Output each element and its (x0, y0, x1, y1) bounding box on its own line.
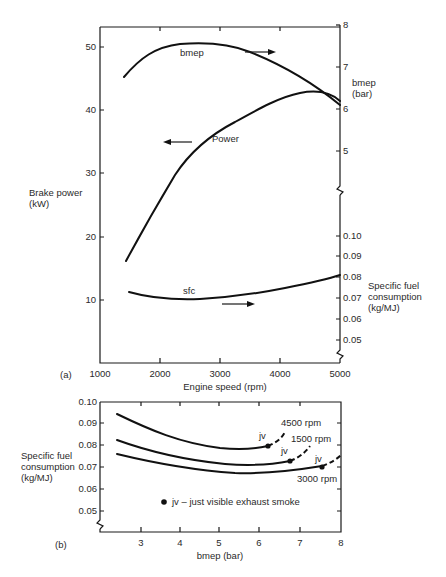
bmep-axis-unit: (bar) (352, 88, 372, 99)
x-tick: 5 (216, 537, 221, 548)
left-tick: 50 (85, 41, 96, 52)
x-tick: 2000 (149, 368, 170, 379)
bmep-curve-label: bmep (180, 47, 204, 58)
left-tick: 20 (85, 231, 96, 242)
bmep-tick: 7 (343, 61, 348, 72)
panel-label-a: (a) (60, 369, 72, 380)
power-curve-label: Power (212, 133, 239, 144)
legend-text: jv – just visible exhaust smoke (171, 496, 300, 507)
x-axis-label: bmep (bar) (197, 550, 243, 561)
left-tick: 40 (85, 104, 96, 115)
jv-marker (287, 458, 292, 463)
x-tick: 6 (256, 537, 261, 548)
bmep-axis-label: bmep (352, 77, 376, 88)
bmep-tick: 6 (343, 103, 348, 114)
x-tick: 3000 (209, 368, 230, 379)
sfc-axis-unit: (kg/MJ) (368, 302, 400, 313)
y-tick: 0.07 (79, 461, 98, 472)
jv-label: jv (314, 453, 322, 464)
chart-b: 0.10 0.09 0.08 0.07 0.06 0.05 Specific f… (21, 396, 344, 561)
sfc-curve-label: sfc (183, 285, 195, 296)
figure: 50 40 30 20 10 Brake power (kW) 8 7 6 5 … (0, 0, 446, 577)
y-tick: 0.09 (79, 417, 98, 428)
left-axis-unit: (kW) (29, 198, 49, 209)
power-curve (126, 92, 340, 261)
y-axis-unit: (kg/MJ) (21, 472, 53, 483)
legend-marker (161, 499, 167, 505)
x-tick: 7 (297, 537, 302, 548)
series-label-1500rpm: 1500 rpm (291, 433, 331, 444)
bmep-tick: 5 (343, 145, 348, 156)
x-tick: 3 (138, 537, 143, 548)
x-tick: 4000 (269, 368, 290, 379)
left-tick: 10 (85, 294, 96, 305)
sfc-tick: 0.08 (343, 271, 362, 282)
series-label-3000rpm: 3000 rpm (297, 473, 337, 484)
curve-4500rpm (117, 414, 268, 449)
left-and-bottom-axis (100, 27, 340, 363)
x-tick: 5000 (329, 368, 350, 379)
curve-1500rpm (117, 440, 290, 465)
y-axis-label: consumption (21, 461, 75, 472)
sfc-curve (129, 275, 340, 299)
sfc-axis-label: Specific fuel (368, 280, 419, 291)
panel-label-b: (b) (55, 539, 67, 550)
sfc-tick: 0.05 (343, 334, 362, 345)
y-tick: 0.06 (79, 483, 98, 494)
chart-a: 50 40 30 20 10 Brake power (kW) 8 7 6 5 … (29, 19, 422, 392)
x-tick: 4 (177, 537, 182, 548)
jv-label: jv (258, 430, 266, 441)
sfc-tick: 0.07 (343, 292, 362, 303)
x-axis-label: Engine speed (rpm) (183, 381, 266, 392)
y-tick: 0.08 (79, 439, 98, 450)
jv-marker (265, 443, 270, 448)
bmep-tick: 8 (343, 19, 348, 30)
x-tick: 8 (338, 537, 343, 548)
jv-label: jv (280, 445, 288, 456)
y-tick: 0.05 (79, 505, 98, 516)
x-tick: 1000 (89, 368, 110, 379)
sfc-tick: 0.09 (343, 250, 362, 261)
left-axis (97, 402, 103, 529)
series-label-4500rpm: 4500 rpm (281, 417, 321, 428)
left-axis-label: Brake power (29, 187, 82, 198)
y-axis-label: Specific fuel (21, 450, 72, 461)
left-tick: 30 (85, 167, 96, 178)
y-tick: 0.10 (79, 396, 98, 407)
sfc-tick: 0.06 (343, 313, 362, 324)
sfc-tick: 0.10 (343, 230, 362, 241)
sfc-axis-label: consumption (368, 291, 422, 302)
jv-marker (319, 464, 324, 469)
bmep-curve (124, 43, 340, 105)
